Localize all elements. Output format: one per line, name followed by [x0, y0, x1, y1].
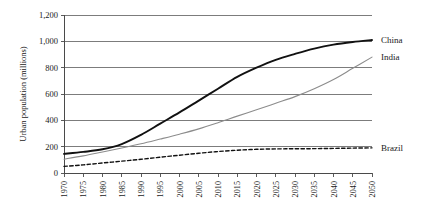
y-tick-label-0: 0	[54, 168, 58, 178]
x-tick-label-2010: 2010	[214, 181, 223, 197]
x-tick-label-2015: 2015	[233, 181, 242, 197]
series-line-india	[64, 57, 372, 159]
y-tick-label-800: 800	[45, 63, 58, 73]
y-tick-label-400: 400	[45, 115, 58, 125]
x-tick-label-2050: 2050	[368, 181, 377, 197]
series-line-china	[64, 40, 372, 154]
y-tick-label-1,200: 1,200	[39, 10, 58, 20]
line-chart: 02004006008001,0001,20019701975198019851…	[0, 0, 421, 223]
y-axis-title: Urban population (millions)	[18, 46, 28, 142]
x-tick-label-2020: 2020	[253, 181, 262, 197]
x-tick-label-1975: 1975	[79, 181, 88, 197]
x-tick-label-2035: 2035	[310, 181, 319, 197]
x-tick-label-1990: 1990	[137, 181, 146, 197]
chart-canvas: 02004006008001,0001,20019701975198019851…	[0, 0, 421, 223]
x-tick-label-1985: 1985	[118, 181, 127, 197]
x-tick-label-2025: 2025	[272, 181, 281, 197]
x-tick-label-1995: 1995	[156, 181, 165, 197]
x-tick-label-2030: 2030	[291, 181, 300, 197]
x-tick-label-1980: 1980	[99, 181, 108, 197]
x-tick-label-2045: 2045	[349, 181, 358, 197]
y-tick-label-600: 600	[45, 89, 58, 99]
x-tick-label-2000: 2000	[176, 181, 185, 197]
series-label-brazil: Brazil	[381, 143, 403, 153]
y-tick-label-1,000: 1,000	[39, 36, 58, 46]
series-label-india: India	[381, 52, 400, 62]
x-tick-label-2040: 2040	[330, 181, 339, 197]
y-tick-label-200: 200	[45, 142, 58, 152]
x-tick-label-1970: 1970	[60, 181, 69, 197]
x-tick-label-2005: 2005	[195, 181, 204, 197]
series-label-china: China	[381, 35, 403, 45]
